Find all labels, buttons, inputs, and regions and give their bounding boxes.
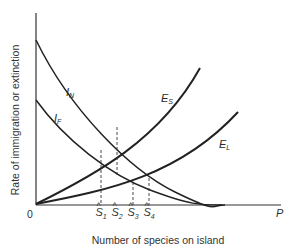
label-e-s: ES bbox=[161, 92, 173, 105]
label-e-l-sub: L bbox=[226, 144, 230, 151]
y-axis-label: Rate of immigration or extinction bbox=[9, 45, 21, 196]
hat-icon: ^ bbox=[112, 201, 116, 211]
tick-s3: ^S3 bbox=[127, 206, 138, 220]
x-end-label: P bbox=[276, 207, 283, 219]
label-e-l: EL bbox=[219, 138, 230, 151]
curve-extinction-large bbox=[36, 112, 238, 204]
tick-s2-sub: 2 bbox=[119, 213, 123, 220]
label-i-n-sub: N bbox=[69, 92, 74, 99]
tick-s2: ^S2 bbox=[111, 206, 122, 220]
hat-icon: ^ bbox=[128, 201, 132, 211]
hat-icon: ^ bbox=[96, 201, 100, 211]
tick-s3-sub: 3 bbox=[135, 213, 139, 220]
label-i-f-sub: F bbox=[57, 118, 61, 125]
tick-s1-sub: 1 bbox=[103, 213, 107, 220]
tick-s1: ^S1 bbox=[95, 206, 106, 220]
tick-s4: ^S4 bbox=[143, 206, 154, 220]
label-e-s-sub: S bbox=[168, 98, 173, 105]
tick-s4-sub: 4 bbox=[151, 213, 155, 220]
curve-extinction-small bbox=[36, 68, 200, 204]
origin-label: 0 bbox=[27, 208, 33, 220]
hat-icon: ^ bbox=[144, 201, 148, 211]
x-axis-label: Number of species on island bbox=[92, 234, 225, 246]
label-i-f: IF bbox=[54, 112, 61, 125]
label-i-n: IN bbox=[66, 86, 74, 99]
